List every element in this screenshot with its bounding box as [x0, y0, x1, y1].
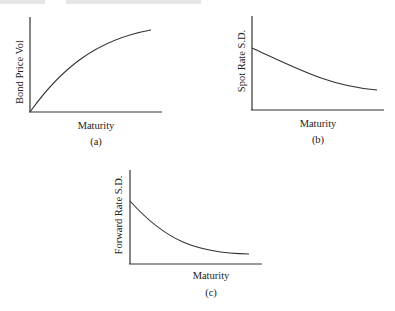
- chart-panel-c: Forward Rate S.D. Maturity (c): [113, 170, 262, 299]
- panel-caption: (c): [205, 287, 217, 299]
- forward-rate-sd-curve: [130, 201, 249, 254]
- y-axis-label: Bond Price Vol: [14, 40, 25, 104]
- figure: Bond Price Vol Maturity (a) Spot Rate S.…: [0, 0, 395, 311]
- x-axis-label: Maturity: [78, 120, 115, 131]
- panel-caption: (a): [90, 136, 102, 148]
- x-axis-label: Maturity: [300, 118, 337, 129]
- bond-price-vol-curve: [30, 30, 151, 112]
- x-axis-label: Maturity: [193, 270, 230, 281]
- spot-rate-sd-curve: [252, 48, 377, 90]
- y-axis-label: Forward Rate S.D.: [113, 176, 124, 255]
- chart-panel-b: Spot Rate S.D. Maturity (b): [236, 16, 384, 146]
- y-axis-label: Spot Rate S.D.: [236, 30, 247, 92]
- panel-caption: (b): [312, 134, 325, 146]
- chart-panel-a: Bond Price Vol Maturity (a): [14, 17, 162, 148]
